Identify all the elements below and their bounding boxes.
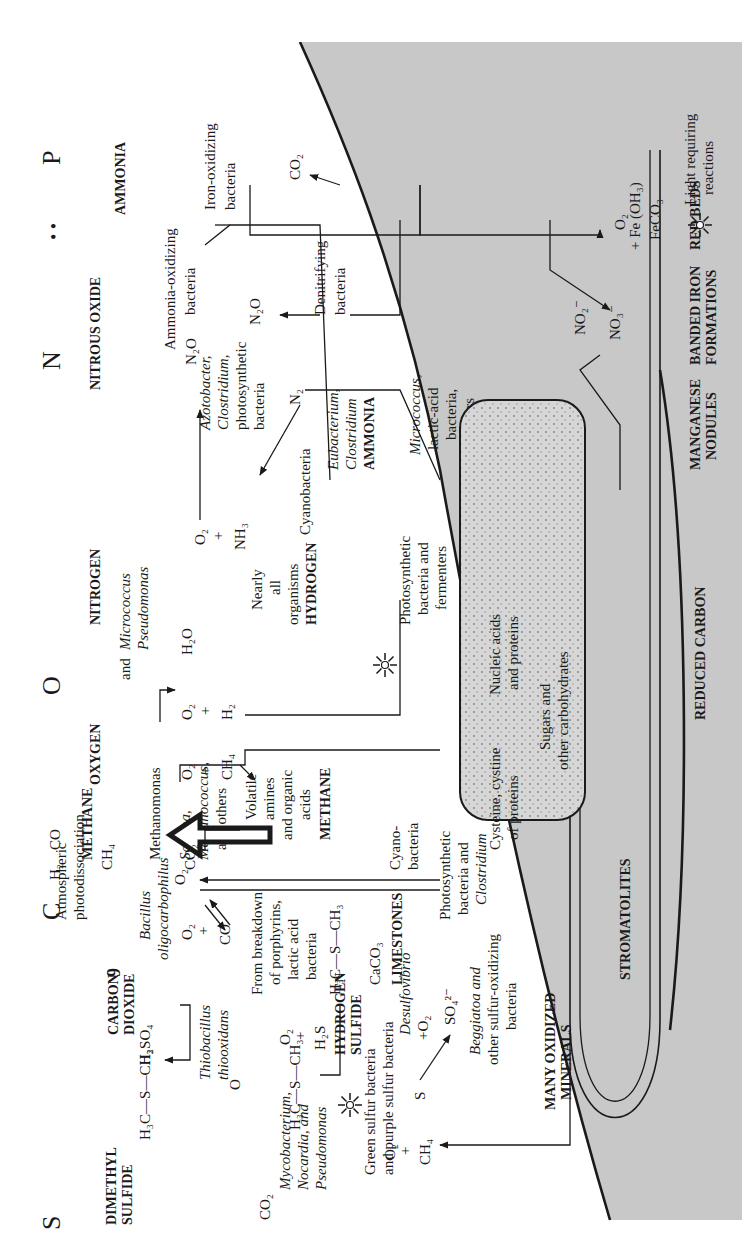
cyanobacteria-sed-label-2: bacteria (405, 822, 421, 870)
organisms-label: organisms (285, 563, 301, 625)
biogeochemical-cycles-diagram: P N O C • • S AMMONIA NITROUS OXIDE NITR… (0, 0, 742, 1250)
legend-sun-icon (688, 213, 712, 237)
no2-label: NO₂⁻ (572, 300, 588, 335)
legend-label-2: reactions (700, 141, 716, 195)
cyanobacteria-label: Cyanobacteria (297, 448, 313, 535)
micrococcus-label: Micrococcus (117, 573, 133, 651)
heading-dimethyl-sulfide-2: SULFIDE (120, 1164, 135, 1225)
many-oxidized-label: MANY OXIDIZED (543, 993, 558, 1110)
bacteria-sed-label: bacteria, (443, 389, 459, 440)
thiooxidans-label: thiooxidans (215, 1010, 231, 1080)
beggiatoa-label-3: bacteria (503, 982, 519, 1030)
heading-oxygen: OXYGEN (88, 724, 103, 785)
bacteria-label: bacteria (251, 382, 267, 430)
beggiatoa-label: Beggiatoa and (467, 967, 483, 1055)
desulfovibrio-label: Desulfovibrio (397, 952, 413, 1036)
photo-fermenters-label: Photosynthetic (397, 535, 413, 625)
caco3-label: CaCO₃ (367, 942, 383, 985)
banded-iron-label-2: FORMATIONS (704, 269, 719, 365)
micrococcus-lactic-label: Micrococcus, (407, 374, 423, 456)
banded-iron-label: BANDED IRON (688, 266, 703, 365)
element-p: P (37, 151, 66, 165)
o2-co-o2: O₂ (179, 924, 195, 940)
co2-iron: CO₂ (287, 154, 303, 180)
o2-ch4-right-o2: O₂ (382, 1144, 398, 1160)
many-oxidized-label-2: MINERALS (559, 1024, 574, 1100)
iron-oxidizing-label-2: bacteria (222, 162, 238, 210)
denitrifying-label-2: bacteria (332, 267, 348, 315)
ammonia-oxidizing-label: Ammonia-oxidizing (162, 228, 178, 350)
element-n: N (37, 351, 66, 370)
co2-top: CO₂ (257, 1194, 273, 1220)
ch4-right: CH₄ (417, 1139, 433, 1165)
cysteine-label: Cysteine, cystine (487, 747, 503, 850)
methane-layer-label: METHANE (318, 768, 333, 840)
iron-oxidizing-label: Iron-oxidizing (202, 123, 218, 210)
nh3-label: NH₃ (232, 523, 248, 550)
reduced-carbon-label: REDUCED CARBON (693, 587, 708, 720)
oligocarbophilus-label: oligocarbophilus (155, 857, 171, 960)
lactic-acid-label: lactic acid (285, 918, 301, 980)
manganese-label-2: NODULES (704, 392, 719, 460)
o2-nh3-plus: + (210, 532, 226, 540)
bacillus-label: Bacillus (137, 891, 153, 940)
cyanobacteria-sed-label: Cyano- (387, 826, 403, 870)
plus-o2-label: +O₂ (415, 1015, 431, 1040)
ch4-label: CH₄ (219, 754, 235, 780)
photo-clostridium-label-2: bacteria and (455, 842, 471, 915)
hydrogen-layer-label: HYDROGEN (304, 543, 319, 625)
heading-nitrogen: NITROGEN (88, 549, 103, 625)
element-o: O (37, 676, 66, 695)
heading-carbon-dioxide-2: DIOXIDE (122, 974, 137, 1035)
o2-co-plus: + (195, 927, 211, 935)
sugars-label: Sugars and (537, 683, 553, 750)
o2-h2-o2: O₂ (179, 704, 195, 720)
so4-label: SO₄²⁻ (442, 988, 458, 1025)
eubacterium-label: Eubacterium, (325, 389, 341, 471)
photosynthetic-label: photosynthetic (233, 341, 249, 430)
h2s-label: H₂S (312, 1026, 328, 1050)
ammonia-layer-label: AMMONIA (362, 396, 377, 470)
sulfur-symbol: 9 (104, 968, 124, 977)
no3-label: NO₃⁻ (607, 305, 623, 340)
thiobacillus-label: Thiobacillus (197, 1005, 213, 1080)
photo-fermenters-label-3: fermenters (433, 546, 449, 610)
o2-ch4-right-plus: + (397, 1147, 413, 1155)
denitrifying-label: Denitrifying (312, 240, 328, 315)
o2-h2-plus: + (197, 707, 213, 715)
organic-label: and organic (279, 770, 295, 840)
eubacterium-label-2: Clostridium (343, 398, 359, 470)
o2-nh3-o2: O₂ (192, 529, 208, 545)
beggiatoa-label-2: other sulfur-oxidizing (485, 934, 501, 1065)
photodissociation-label: photodissociation (71, 814, 87, 920)
methanomonas-label: Methanomonas (147, 767, 163, 860)
pseudomonas-label: Pseudomonas (135, 567, 151, 651)
heading-ammonia: AMMONIA (113, 141, 128, 215)
ammonia-oxidizing-label-2: bacteria (182, 267, 198, 315)
lactic-acid-sed-label: lactic-acid (425, 387, 441, 450)
mycobacterium-label-1: Mycobacterium, (277, 1092, 293, 1191)
legend-label: Light requiring (682, 113, 698, 205)
p-dots: • • (44, 223, 64, 240)
sugars-label-2: other carbohydrates (555, 651, 571, 770)
element-s: S (37, 1216, 66, 1230)
manganese-label: MANGANESE (688, 379, 703, 470)
micrococcus-and: and (117, 658, 133, 680)
o2-ch4-o2: O₂ (179, 764, 195, 780)
mycobacterium-label-2: Nocardia, and (295, 1103, 311, 1191)
all-label: all (267, 580, 283, 595)
volatile-label: Volatile (243, 773, 259, 820)
hydrogen-sulfide-label-2: SULFIDE (349, 994, 364, 1055)
heading-nitrous-oxide: NITROUS OXIDE (88, 277, 103, 390)
nucleic-acids-label-2: and proteins (505, 616, 521, 690)
n2o-top: N₂O (183, 338, 199, 365)
ch4-label: CH₄ (99, 844, 115, 870)
heading-dimethyl-sulfide-1: DIMETHYL (104, 1147, 119, 1225)
sun-icon (373, 653, 397, 677)
o2-arrow-label: O₂ (172, 869, 188, 885)
s-label: S (412, 1092, 428, 1100)
green-sulfur-label: Green sulfur bacteria (362, 1048, 378, 1175)
h2-label: H₂ (219, 704, 235, 720)
breakdown-label: From breakdown (249, 892, 265, 995)
photo-fermenters-label-2: bacteria and (415, 542, 431, 615)
